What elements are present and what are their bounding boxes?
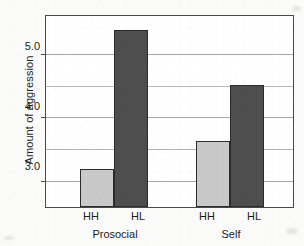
scan-artifact bbox=[286, 228, 298, 234]
bar-prosocial-hl bbox=[114, 30, 148, 207]
plot-area bbox=[45, 15, 294, 208]
x-group-label-prosocial: Prosocial bbox=[92, 228, 137, 240]
y-tick-label-5: 5.0 bbox=[14, 40, 40, 52]
plot-inner bbox=[46, 16, 293, 207]
bar-chart-figure: Amount of aggression 5.0 4.0 3.0 HH HL H… bbox=[0, 0, 304, 246]
x-tick-label-self-hh: HH bbox=[199, 210, 215, 222]
scan-artifact bbox=[292, 6, 301, 11]
x-group-label-self: Self bbox=[222, 228, 241, 240]
x-tick-label-prosocial-hl: HL bbox=[131, 210, 145, 222]
x-axis-labels: HH HL HH HL Prosocial Self bbox=[45, 210, 294, 246]
bar-self-hh bbox=[196, 141, 230, 208]
y-tick-label-3: 3.0 bbox=[14, 160, 40, 172]
x-tick-label-self-hl: HL bbox=[247, 210, 261, 222]
y-tick-label-4: 4.0 bbox=[14, 100, 40, 112]
bar-prosocial-hh bbox=[80, 169, 114, 207]
y-axis-tick-labels: 5.0 4.0 3.0 bbox=[14, 0, 40, 246]
scan-artifact bbox=[4, 236, 14, 240]
bar-self-hl bbox=[230, 85, 264, 207]
x-tick-label-prosocial-hh: HH bbox=[83, 210, 99, 222]
y-tickmark-5 bbox=[41, 54, 46, 55]
y-tickmark-3 bbox=[41, 181, 46, 182]
y-tickmark-4 bbox=[41, 117, 46, 118]
gridline-5 bbox=[46, 54, 293, 55]
